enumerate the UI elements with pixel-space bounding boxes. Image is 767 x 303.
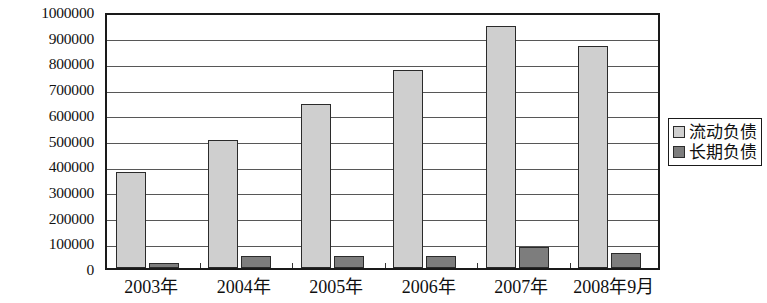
bar-current-liabilities	[578, 46, 608, 268]
gridline	[107, 194, 658, 195]
y-axis-tick-label: 500000	[49, 134, 94, 150]
bar-chart: 0100000200000300000400000500000600000700…	[0, 0, 767, 303]
y-axis-tick-label: 100000	[49, 237, 94, 253]
legend-swatch-icon	[673, 126, 685, 138]
x-axis-tickmark	[385, 263, 386, 268]
gridline	[107, 220, 658, 221]
bar-current-liabilities	[486, 26, 516, 268]
y-axis-tick-label: 300000	[49, 185, 94, 201]
y-axis-tick-label: 1000000	[41, 5, 94, 21]
bar-current-liabilities	[208, 140, 238, 269]
x-axis-tick-label: 2006年	[402, 276, 456, 298]
bar-longterm-liabilities	[334, 256, 364, 268]
bar-longterm-liabilities	[426, 256, 456, 268]
legend-item-label: 长期负债	[689, 143, 757, 161]
y-axis-tick-label: 700000	[49, 82, 94, 98]
gridline	[107, 92, 658, 93]
gridline	[107, 143, 658, 144]
x-axis-tickmark	[477, 263, 478, 268]
x-axis-tick-label: 2008年9月	[573, 276, 654, 298]
bar-longterm-liabilities	[241, 256, 271, 268]
x-axis-tick-label: 2004年	[217, 276, 271, 298]
gridline	[107, 169, 658, 170]
bar-current-liabilities	[116, 172, 146, 268]
chart-legend: 流动负债长期负债	[668, 118, 762, 166]
x-axis-tick-label: 2005年	[309, 276, 363, 298]
gridline	[107, 40, 658, 41]
y-axis-tick-label: 400000	[49, 159, 94, 175]
y-axis-tick-label: 600000	[49, 108, 94, 124]
x-axis-tick-label: 2007年	[494, 276, 548, 298]
legend-item-label: 流动负债	[689, 123, 757, 141]
bar-longterm-liabilities	[611, 253, 641, 268]
bar-current-liabilities	[301, 104, 331, 268]
y-axis-tick-label: 200000	[49, 211, 94, 227]
legend-item: 长期负债	[673, 142, 757, 162]
x-axis-tickmark	[292, 263, 293, 268]
legend-item: 流动负债	[673, 122, 757, 142]
bar-current-liabilities	[393, 70, 423, 268]
y-axis: 0100000200000300000400000500000600000700…	[0, 0, 100, 303]
gridline	[107, 66, 658, 67]
legend-swatch-icon	[673, 146, 685, 158]
x-axis: 2003年2004年2005年2006年2007年2008年9月	[0, 272, 767, 303]
gridline	[107, 246, 658, 247]
plot-area	[105, 13, 660, 270]
bar-longterm-liabilities	[149, 263, 179, 268]
x-axis-tickmark	[570, 263, 571, 268]
x-axis-tickmark	[200, 263, 201, 268]
gridline	[107, 117, 658, 118]
y-axis-tick-label: 900000	[49, 31, 94, 47]
bar-longterm-liabilities	[519, 247, 549, 268]
y-axis-tick-label: 800000	[49, 57, 94, 73]
x-axis-tick-label: 2003年	[124, 276, 178, 298]
